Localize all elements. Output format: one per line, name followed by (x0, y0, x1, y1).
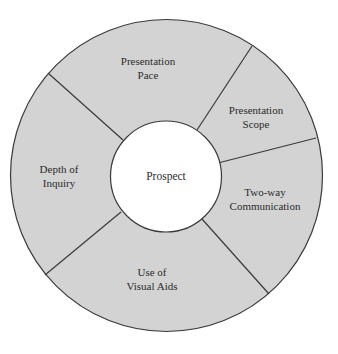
segment-label-line: Visual Aids (127, 280, 178, 292)
center-label: Prospect (146, 170, 186, 183)
prospect-ring-diagram: Presentation Pace Presentation Scope Two… (0, 0, 338, 354)
segment-label-line: Depth of (40, 163, 79, 175)
segment-label-line: Communication (230, 200, 301, 212)
segment-label-line: Inquiry (43, 177, 76, 189)
segment-label-line: Use of (137, 266, 166, 278)
segment-label-line: Presentation (121, 55, 176, 67)
segment-label-line: Two-way (244, 186, 286, 198)
segment-label-line: Scope (243, 118, 270, 130)
segment-label-line: Presentation (229, 104, 284, 116)
segment-label-line: Pace (138, 69, 159, 81)
